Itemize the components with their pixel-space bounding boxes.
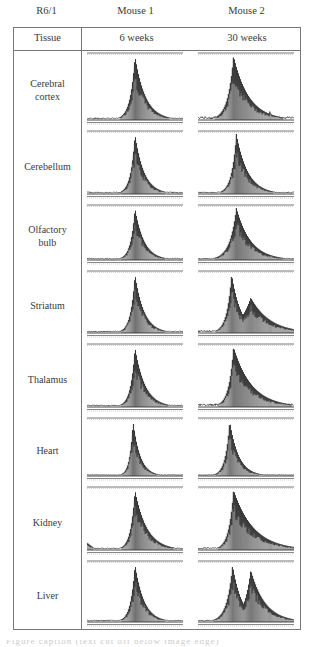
tissue-row: Thalamus [14,342,300,416]
trace-mouse-2 [198,416,294,485]
trace-mouse-1 [87,559,183,631]
tissue-row: Olfactory bulb [14,203,300,269]
tissue-label: Kidney [14,485,81,559]
trace-mouse-1 [87,269,183,342]
figure-caption-cutoff: Figure caption (text cut off below image… [6,640,306,647]
tissue-label: Cerebellum [14,129,81,203]
tissue-row: Kidney [14,485,300,559]
tissue-row: Cerebellum [14,129,300,203]
column-header-mouse-2: Mouse 2 [191,5,302,16]
trace-mouse-1 [87,129,183,203]
trace-mouse-2 [198,485,294,559]
caption-text: Figure caption (text cut off below image… [6,640,306,646]
age-header-mouse-1: 6 weeks [81,32,192,43]
trace-mouse-2 [198,129,294,203]
trace-mouse-2 [198,203,294,269]
trace-mouse-1 [87,416,183,485]
tissue-label: Olfactory bulb [14,203,81,269]
trace-mouse-2 [198,342,294,416]
trace-mouse-1 [87,342,183,416]
trace-mouse-2 [198,559,294,631]
trace-mouse-1 [87,485,183,559]
trace-mouse-2 [198,51,294,129]
trace-mouse-2 [198,269,294,342]
tissue-row: Cerebral cortex [14,51,300,129]
tissue-label: Heart [14,416,81,485]
tissue-label: Thalamus [14,342,81,416]
tissue-label: Striatum [14,269,81,342]
tissue-label: Liver [14,559,81,631]
tissue-row: Striatum [14,269,300,342]
trace-mouse-1 [87,51,183,129]
tissue-row: Heart [14,416,300,485]
trace-mouse-1 [87,203,183,269]
column-header-corner: R6/1 [13,5,80,16]
tissue-row: Liver [14,559,300,631]
tissue-trace-table: Tissue 6 weeks 30 weeks Cerebral cortexC… [13,27,301,630]
tissue-header: Tissue [14,32,81,43]
column-header-mouse-1: Mouse 1 [80,5,191,16]
age-header-mouse-2: 30 weeks [192,32,302,43]
tissue-label: Cerebral cortex [14,51,81,129]
